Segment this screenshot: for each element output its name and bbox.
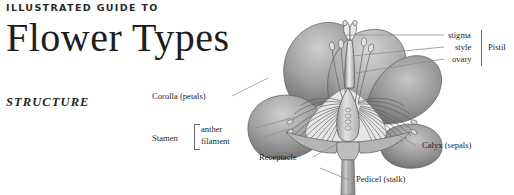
label-receptacle: Receptacle xyxy=(259,152,297,163)
section-label: STRUCTURE xyxy=(6,95,90,110)
label-stigma: stigma xyxy=(448,30,471,41)
masthead: ILLUSTRATED GUIDE TO Flower Types xyxy=(6,2,256,60)
receptacle xyxy=(337,142,360,160)
label-filament: filament xyxy=(201,136,230,147)
label-anther: anther xyxy=(201,124,222,135)
flower-illustration xyxy=(238,8,452,195)
label-pedicel: Pedicel (stalk) xyxy=(356,174,405,185)
label-calyx: Calyx (sepals) xyxy=(422,140,471,151)
stamen-bracket xyxy=(194,124,200,150)
pistil-bracket xyxy=(481,30,486,66)
label-pistil-group: Pistil xyxy=(488,42,506,52)
flower-types-infographic: ILLUSTRATED GUIDE TO Flower Types STRUCT… xyxy=(0,0,514,195)
page-title: Flower Types xyxy=(6,16,256,60)
label-ovary: ovary xyxy=(452,54,472,65)
label-style: style xyxy=(455,42,471,53)
kicker-text: ILLUSTRATED GUIDE TO xyxy=(6,2,256,14)
label-corolla: Corolla (petals) xyxy=(152,91,206,102)
label-stamen-group: Stamen xyxy=(152,133,178,143)
